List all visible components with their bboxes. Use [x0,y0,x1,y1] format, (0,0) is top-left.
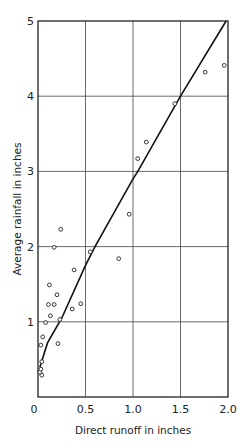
data-point [56,342,60,346]
data-point [88,250,92,254]
data-point [59,227,63,231]
x-tick-label: 0.5 [77,403,95,416]
data-point [72,268,76,272]
y-tick-label: 1 [27,316,34,329]
x-tick-label: 0 [31,403,38,416]
data-point [70,307,74,311]
data-point [52,303,56,307]
data-point [48,314,52,318]
data-point [52,245,56,249]
x-axis-label: Direct runoff in inches [75,424,191,436]
runoff-rainfall-chart: 00.51.01.52.0 12345 Direct runoff in inc… [0,0,244,446]
data-points-group [38,63,226,377]
y-tick-label: 2 [27,241,34,254]
data-point [203,70,207,74]
data-point [41,335,45,339]
grid-lines [38,21,228,397]
data-point [58,318,62,322]
data-point [47,303,51,307]
y-tick-label: 3 [27,165,34,178]
data-point [222,63,226,67]
data-point [44,321,48,325]
x-tick-label: 1.0 [124,403,142,416]
x-tick-labels: 00.51.01.52.0 [31,403,237,416]
data-point [39,367,43,371]
data-point [136,157,140,161]
data-point [55,293,59,297]
data-point [40,373,44,377]
x-tick-label: 1.5 [172,403,190,416]
y-tick-label: 4 [27,90,34,103]
y-tick-labels: 12345 [27,15,34,329]
data-point [144,140,148,144]
data-point [117,257,121,261]
data-point [40,360,44,364]
data-point [127,212,131,216]
data-point [79,302,83,306]
y-tick-label: 5 [27,15,34,28]
x-tick-label: 2.0 [219,403,237,416]
data-point [173,102,177,106]
data-point [48,283,52,287]
y-axis-label: Average rainfall in inches [11,143,23,276]
data-point [39,343,43,347]
